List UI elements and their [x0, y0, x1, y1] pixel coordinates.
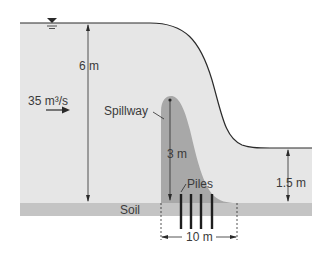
- diagram-graphics: [0, 0, 334, 256]
- spillway-diagram: 6 m 35 m³/s Spillway 3 m Piles 1.5 m Soi…: [0, 0, 334, 256]
- spillway-label: Spillway: [104, 104, 148, 118]
- spillway-height-label: 3 m: [167, 147, 187, 161]
- soil-label: Soil: [120, 203, 140, 217]
- soil-layer: [20, 203, 312, 216]
- downstream-depth-label: 1.5 m: [276, 176, 306, 190]
- upstream-depth-label: 6 m: [79, 59, 99, 73]
- flow-rate-label: 35 m³/s: [28, 94, 68, 108]
- piles-label: Piles: [187, 177, 213, 191]
- base-width-label: 10 m: [186, 230, 213, 244]
